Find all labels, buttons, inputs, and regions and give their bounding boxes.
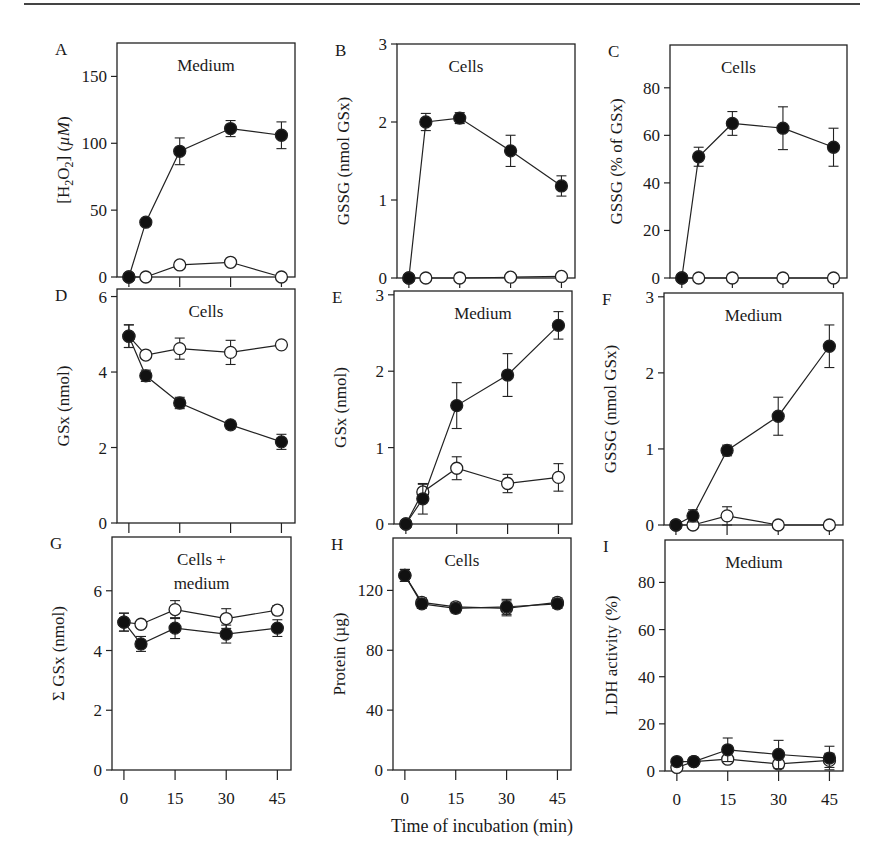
panel-f: F0123GSSG (nmol GSx)Medium	[601, 288, 843, 535]
panel-letter: B	[335, 41, 346, 60]
filled-circle-marker	[174, 145, 186, 157]
filled-circle-marker	[726, 117, 738, 129]
panel-letter: A	[55, 40, 68, 59]
filled-circle-marker	[777, 122, 789, 134]
y-tick-label: 6	[94, 582, 103, 601]
open-circle-marker	[275, 271, 287, 283]
x-tick-label: 0	[673, 790, 682, 809]
panel-letter: C	[608, 42, 619, 61]
y-tick-label: 2	[646, 364, 655, 383]
panel-annotation: Cells	[721, 58, 756, 77]
y-axis-label: GSx (nmol)	[54, 366, 73, 447]
panel-annotation: Cells	[449, 57, 484, 76]
panel-annotation: Cells +	[177, 550, 226, 569]
series-line-filled	[682, 123, 834, 278]
filled-circle-marker	[721, 444, 733, 456]
filled-circle-marker	[275, 129, 287, 141]
y-tick-label: 120	[358, 581, 384, 600]
filled-circle-marker	[271, 622, 283, 634]
y-tick-label: 0	[94, 761, 103, 780]
panel-g: G02460153045Σ GSx (nmol)Cells +medium	[49, 534, 291, 808]
y-tick-label: 4	[94, 642, 103, 661]
y-tick-label: 80	[643, 79, 660, 98]
y-axis-label: GSx (nmol)	[331, 367, 350, 448]
y-axis-label: Σ GSx (nmol)	[49, 606, 68, 701]
open-circle-marker	[174, 259, 186, 271]
open-circle-marker	[693, 272, 705, 284]
x-tick-label: 45	[821, 790, 838, 809]
y-tick-label: 1	[379, 191, 388, 210]
panel-e: E0123GSx (nmol)Medium	[331, 286, 572, 534]
axes-frame	[117, 43, 295, 277]
y-tick-label: 0	[646, 516, 655, 535]
panel-letter: I	[603, 537, 609, 556]
open-circle-marker	[777, 272, 789, 284]
open-circle-marker	[169, 604, 181, 616]
y-tick-label: 2	[99, 439, 108, 458]
filled-circle-marker	[671, 756, 683, 768]
open-circle-marker	[721, 510, 733, 522]
y-axis-label: LDH activity (%)	[602, 596, 621, 716]
y-tick-label: 4	[99, 363, 108, 382]
x-tick-label: 0	[120, 789, 129, 808]
x-tick-label: 45	[549, 789, 566, 808]
y-axis-label: GSSG (nmol GSx)	[601, 345, 620, 473]
axes-frame	[397, 44, 575, 278]
axes-frame	[664, 293, 843, 525]
filled-circle-marker	[118, 616, 130, 628]
x-tick-label: 30	[770, 790, 787, 809]
filled-circle-marker	[828, 141, 840, 153]
panel-letter: G	[50, 534, 62, 553]
open-circle-marker	[275, 339, 287, 351]
y-tick-label: 150	[82, 67, 108, 86]
filled-circle-marker	[676, 272, 688, 284]
y-tick-label: 80	[366, 641, 383, 660]
x-tick-label: 15	[447, 789, 464, 808]
panel-annotation: Medium	[454, 304, 512, 323]
open-circle-marker	[552, 471, 564, 483]
y-axis-label: GSSG (% of GSx)	[607, 98, 626, 224]
top-rule-divider	[24, 3, 860, 5]
filled-circle-marker	[400, 518, 412, 530]
x-tick-label: 30	[218, 789, 235, 808]
open-circle-marker	[454, 272, 466, 284]
y-tick-label: 50	[90, 201, 107, 220]
open-circle-marker	[772, 519, 784, 531]
y-tick-label: 6	[99, 288, 108, 307]
filled-circle-marker	[123, 271, 135, 283]
filled-circle-marker	[772, 410, 784, 422]
x-tick-label: 45	[269, 789, 286, 808]
y-tick-label: 100	[82, 134, 108, 153]
panel-letter: H	[331, 535, 343, 554]
filled-circle-marker	[551, 598, 563, 610]
x-tick-label: 15	[167, 789, 184, 808]
filled-circle-marker	[505, 145, 517, 157]
panel-letter: F	[602, 290, 611, 309]
open-circle-marker	[174, 343, 186, 355]
filled-circle-marker	[275, 436, 287, 448]
panel-annotation: Medium	[725, 306, 783, 325]
axes-frame	[665, 540, 843, 771]
filled-circle-marker	[501, 601, 513, 613]
y-tick-label: 60	[643, 126, 660, 145]
open-circle-marker	[225, 346, 237, 358]
open-circle-marker	[828, 272, 840, 284]
panel-c: C020406080GSSG (% of GSx)Cells	[607, 42, 847, 288]
filled-circle-marker	[502, 369, 514, 381]
panel-b: B0123GSSG (nmol GSx)Cells	[334, 35, 575, 288]
filled-circle-marker	[687, 510, 699, 522]
filled-circle-marker	[693, 151, 705, 163]
x-tick-label: 15	[719, 790, 736, 809]
panel-annotation: Cells	[189, 302, 224, 321]
y-tick-label: 3	[379, 35, 388, 54]
y-tick-label: 1	[646, 440, 655, 459]
open-circle-marker	[502, 478, 514, 490]
filled-circle-marker	[823, 752, 835, 764]
filled-circle-marker	[552, 319, 564, 331]
open-circle-marker	[140, 271, 152, 283]
y-tick-label: 40	[638, 668, 655, 687]
y-tick-label: 60	[638, 621, 655, 640]
series-line-filled	[409, 118, 562, 278]
y-tick-label: 3	[646, 288, 655, 307]
panel-annotation: Medium	[177, 56, 235, 75]
